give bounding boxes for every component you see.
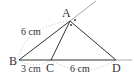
segment-ac (51, 21, 70, 60)
measure-cd: 6 cm (70, 63, 90, 74)
ray-ba-extension (70, 1, 96, 21)
point-label-a: A (62, 6, 71, 20)
point-label-b: B (9, 54, 17, 68)
angle-mark-dot (70, 24, 72, 26)
measure-ab: 6 cm (21, 26, 41, 37)
point-label-d: D (112, 61, 121, 75)
measure-bc: 3 cm (21, 63, 41, 74)
segment-ad (70, 21, 116, 60)
geometry-diagram: A B C D 6 cm 3 cm 6 cm (0, 0, 134, 76)
point-label-c: C (46, 61, 54, 75)
angle-mark-dot (74, 19, 76, 21)
